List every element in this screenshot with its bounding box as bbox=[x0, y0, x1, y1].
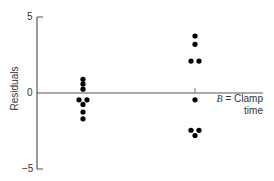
data-point bbox=[196, 58, 201, 63]
data-point bbox=[80, 102, 85, 107]
data-point bbox=[76, 97, 81, 102]
data-point bbox=[196, 128, 201, 133]
y-tick-label-zero: 0 bbox=[27, 88, 33, 98]
data-point bbox=[192, 97, 197, 102]
annotation-line2: time bbox=[205, 105, 263, 117]
chart-canvas bbox=[0, 0, 274, 181]
data-point bbox=[80, 81, 85, 86]
y-tick-label-top: 5 bbox=[27, 12, 33, 22]
y-axis-label: Residuals bbox=[9, 66, 20, 112]
y-tick-label-bottom: −5 bbox=[22, 164, 33, 174]
data-points bbox=[76, 33, 201, 138]
data-point bbox=[80, 109, 85, 114]
data-point bbox=[188, 58, 193, 63]
clamp-time-annotation: B = Clamp time bbox=[205, 93, 263, 117]
data-point bbox=[80, 116, 85, 121]
annotation-text: = Clamp bbox=[223, 93, 263, 104]
data-point bbox=[84, 97, 89, 102]
data-point bbox=[192, 33, 197, 38]
data-point bbox=[192, 133, 197, 138]
data-point bbox=[192, 42, 197, 47]
data-point bbox=[188, 128, 193, 133]
data-point bbox=[80, 87, 85, 92]
data-point bbox=[80, 77, 85, 82]
